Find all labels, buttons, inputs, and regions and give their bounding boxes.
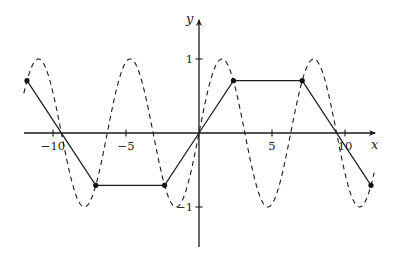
y-tick-label: −1 xyxy=(176,200,193,214)
data-point-marker xyxy=(24,78,29,83)
data-point-marker xyxy=(162,183,167,188)
chart: −10−5510 x 1−1 y xyxy=(0,0,397,261)
x-axis: −10−5510 x xyxy=(24,130,379,154)
data-point-marker xyxy=(231,78,236,83)
x-tick-label: −10 xyxy=(41,139,65,153)
y-axis: 1−1 y xyxy=(176,11,202,247)
y-tick-label: 1 xyxy=(186,52,193,66)
x-axis-label: x xyxy=(371,137,379,152)
x-tick-label: −5 xyxy=(118,139,135,153)
y-axis-label: y xyxy=(185,11,194,26)
data-point-marker xyxy=(93,183,98,188)
data-point-marker xyxy=(368,183,373,188)
data-point-marker xyxy=(300,78,305,83)
x-tick-label: 5 xyxy=(268,139,275,153)
